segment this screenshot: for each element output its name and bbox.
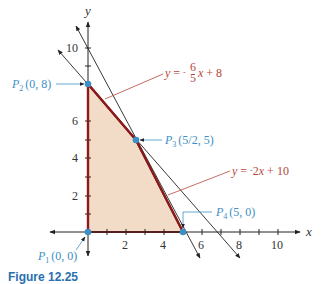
y-tick-label: 10 bbox=[66, 41, 78, 55]
label-p3: P3(5/2, 5) bbox=[164, 133, 214, 149]
y-tick-label: 4 bbox=[72, 151, 78, 165]
label-p4: P4(5, 0) bbox=[215, 205, 255, 221]
x-axis-label: x bbox=[305, 224, 312, 239]
equation-label-1: y = - 6 5 x + 8 bbox=[164, 60, 222, 85]
svg-text:y = -2x + 10: y = -2x + 10 bbox=[231, 164, 289, 178]
y-tick-label: 2 bbox=[72, 189, 78, 203]
y-axis-label: y bbox=[83, 3, 91, 18]
svg-text:x + 8: x + 8 bbox=[197, 66, 222, 80]
x-tick-label: 10 bbox=[271, 238, 283, 252]
vertex-p1 bbox=[85, 229, 92, 236]
svg-text:5: 5 bbox=[190, 71, 196, 85]
x-tick-label: 6 bbox=[198, 238, 204, 252]
label-p2: P2(0, 8) bbox=[11, 77, 51, 93]
y-tick-label: 6 bbox=[72, 114, 78, 128]
figure-caption: Figure 12.25 bbox=[8, 270, 78, 284]
label-p1: P1(0, 0) bbox=[37, 249, 77, 265]
x-tick-label: 8 bbox=[236, 238, 242, 252]
vertex-p3 bbox=[133, 137, 140, 144]
vertex-p2 bbox=[85, 81, 92, 88]
x-tick-label: 2 bbox=[122, 238, 128, 252]
equation-label-2: y = -2x + 10 bbox=[231, 164, 289, 178]
feasible-region bbox=[88, 84, 183, 232]
vertex-p4 bbox=[180, 229, 187, 236]
x-tick-label: 4 bbox=[160, 238, 166, 252]
svg-text:y = -: y = - bbox=[164, 66, 186, 80]
